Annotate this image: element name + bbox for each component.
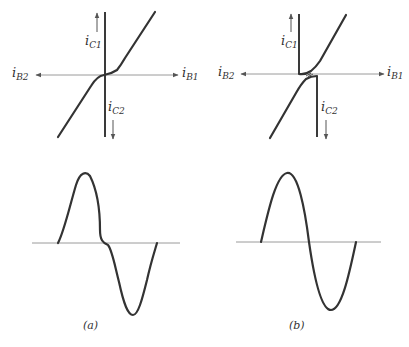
label-ib2: iB2 <box>12 65 29 82</box>
panel-b-transfer-characteristic: iC1 iC2 iB1 iB2 <box>218 14 404 139</box>
distorted-sine-wave <box>58 173 157 315</box>
panel-a-transfer-characteristic: iC1 iC2 iB1 iB2 <box>12 12 199 139</box>
caption-a: (a) <box>83 319 98 332</box>
sine-wave <box>261 173 356 310</box>
label-ib1: iB1 <box>387 64 404 81</box>
transfer-curve-b-upper <box>299 15 346 74</box>
transfer-curve-b-lower <box>270 76 317 138</box>
panel-b-waveform: (b) <box>236 173 381 332</box>
label-ib1: iB1 <box>182 65 199 82</box>
figure-canvas: iC1 iC2 iB1 iB2 iC1 iC2 iB1 iB2 (a) (b) <box>0 0 409 347</box>
label-ic2: iC2 <box>321 99 338 116</box>
caption-b: (b) <box>289 319 305 332</box>
label-ic1: iC1 <box>281 33 298 50</box>
label-ic2: iC2 <box>108 99 125 116</box>
panel-a-waveform: (a) <box>32 173 180 332</box>
label-ic1: iC1 <box>85 33 102 50</box>
label-ib2: iB2 <box>218 64 235 81</box>
